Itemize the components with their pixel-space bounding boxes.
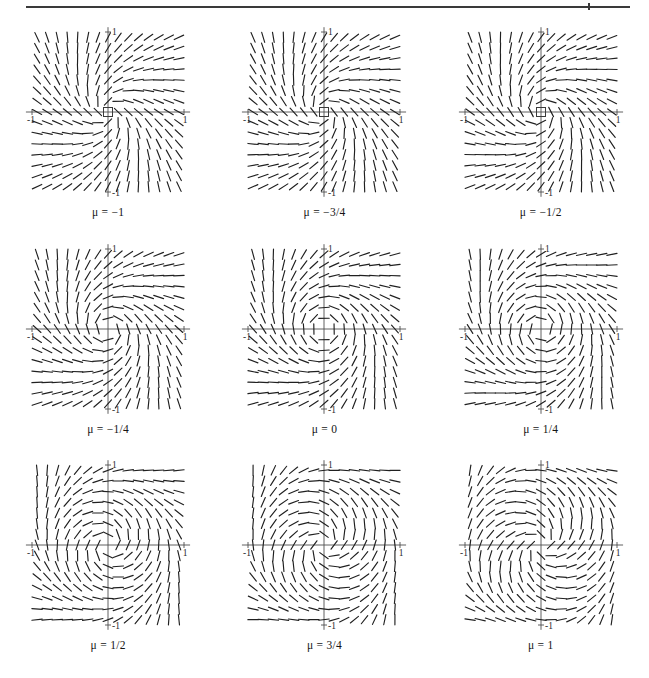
plot-area: -111-1 <box>20 22 196 204</box>
plot-area: -111-1 <box>453 22 629 204</box>
panel-mu-pos3-4: -111-1μ = 3/4 <box>216 455 432 672</box>
direction-field-panel-grid: -111-1μ = −1-111-1μ = −3/4-111-1μ = −1/2… <box>0 22 649 672</box>
y-tick-label-neg1: -1 <box>112 621 120 631</box>
y-tick-label-neg1: -1 <box>328 405 336 415</box>
panel-caption: μ = −1/4 <box>87 423 129 435</box>
x-tick-label-pos1: 1 <box>183 548 188 558</box>
y-tick-label-pos1: 1 <box>545 27 550 37</box>
page-top-rule <box>26 6 630 8</box>
x-tick-label-pos1: 1 <box>615 115 620 125</box>
x-tick-label-neg1: -1 <box>460 548 468 558</box>
panel-mu-neg1-2: -111-1μ = −1/2 <box>433 22 649 239</box>
x-tick-label-pos1: 1 <box>399 332 404 342</box>
panel-caption: μ = 1/4 <box>523 423 558 435</box>
x-tick-label-pos1: 1 <box>183 115 188 125</box>
panel-mu-pos1: -111-1μ = 1 <box>433 455 649 672</box>
y-tick-label-neg1: -1 <box>545 188 553 198</box>
panel-caption: μ = 0 <box>312 423 338 435</box>
plot-area: -111-1 <box>236 455 412 637</box>
x-tick-label-pos1: 1 <box>399 115 404 125</box>
panel-mu-neg3-4: -111-1μ = −3/4 <box>216 22 432 239</box>
y-tick-label-neg1: -1 <box>545 405 553 415</box>
plot-area: -111-1 <box>236 22 412 204</box>
y-tick-label-neg1: -1 <box>328 621 336 631</box>
x-tick-label-neg1: -1 <box>244 115 252 125</box>
panel-mu-neg1-4: -111-1μ = −1/4 <box>0 239 216 456</box>
y-tick-label-pos1: 1 <box>328 27 333 37</box>
y-tick-label-pos1: 1 <box>328 460 333 470</box>
panel-mu-neg1: -111-1μ = −1 <box>0 22 216 239</box>
panel-mu-pos1-4: -111-1μ = 1/4 <box>433 239 649 456</box>
x-tick-label-neg1: -1 <box>27 548 35 558</box>
x-tick-label-pos1: 1 <box>615 332 620 342</box>
x-tick-label-neg1: -1 <box>244 332 252 342</box>
x-tick-label-neg1: -1 <box>244 548 252 558</box>
plot-area: -111-1 <box>453 239 629 421</box>
x-tick-label-neg1: -1 <box>27 332 35 342</box>
panel-caption: μ = 1 <box>528 639 554 651</box>
plot-area: -111-1 <box>20 239 196 421</box>
x-tick-label-pos1: 1 <box>183 332 188 342</box>
page-top-rule-tick <box>588 3 590 10</box>
panel-caption: μ = 3/4 <box>307 639 342 651</box>
y-tick-label-neg1: -1 <box>112 405 120 415</box>
y-tick-label-pos1: 1 <box>112 244 117 254</box>
panel-caption: μ = −3/4 <box>304 206 346 218</box>
x-tick-label-pos1: 1 <box>615 548 620 558</box>
panel-caption: μ = −1 <box>92 206 124 218</box>
y-tick-label-pos1: 1 <box>328 244 333 254</box>
y-tick-label-neg1: -1 <box>545 621 553 631</box>
plot-area: -111-1 <box>236 239 412 421</box>
panel-caption: μ = 1/2 <box>91 639 126 651</box>
plot-area: -111-1 <box>20 455 196 637</box>
y-tick-label-neg1: -1 <box>328 188 336 198</box>
x-tick-label-neg1: -1 <box>27 115 35 125</box>
y-tick-label-pos1: 1 <box>545 244 550 254</box>
y-tick-label-pos1: 1 <box>112 27 117 37</box>
plot-area: -111-1 <box>453 455 629 637</box>
x-tick-label-pos1: 1 <box>399 548 404 558</box>
y-tick-label-neg1: -1 <box>112 188 120 198</box>
x-tick-label-neg1: -1 <box>460 115 468 125</box>
y-tick-label-pos1: 1 <box>112 460 117 470</box>
panel-mu-0: -111-1μ = 0 <box>216 239 432 456</box>
y-tick-label-pos1: 1 <box>545 460 550 470</box>
panel-mu-pos1-2: -111-1μ = 1/2 <box>0 455 216 672</box>
x-tick-label-neg1: -1 <box>460 332 468 342</box>
panel-caption: μ = −1/2 <box>520 206 562 218</box>
